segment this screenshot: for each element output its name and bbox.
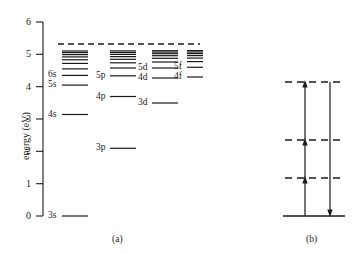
panel-a-caption: (a) <box>112 235 123 245</box>
y-tick-label-0: 0 <box>26 211 31 221</box>
level-label-6s: 6s <box>48 70 56 80</box>
absorption-arrows <box>302 80 307 216</box>
arrowhead-up-3 <box>302 80 307 87</box>
level-column-s <box>62 51 88 216</box>
panel-a <box>36 22 203 216</box>
level-label-3d: 3d <box>138 98 148 108</box>
level-group-f-unlabeled <box>187 51 203 62</box>
level-label-4d: 4d <box>138 73 148 83</box>
level-label-5p: 5p <box>96 71 106 81</box>
level-group-p-unlabeled <box>110 51 136 68</box>
y-tick-label-5: 5 <box>26 49 31 59</box>
level-column-p <box>110 51 136 148</box>
y-tick-label-6: 6 <box>26 17 31 27</box>
panel-b-caption: (b) <box>306 235 317 245</box>
level-label-5d: 5d <box>138 63 148 73</box>
level-label-5s: 5s <box>48 80 56 90</box>
y-tick-label-3: 3 <box>26 114 31 124</box>
level-label-4s: 4s <box>48 110 56 120</box>
level-group-d-unlabeled <box>152 51 178 62</box>
level-label-5f: 5f <box>174 62 182 72</box>
level-group-s-unlabeled <box>62 51 88 69</box>
level-column-f <box>187 51 203 77</box>
level-label-3s: 3s <box>48 211 56 221</box>
y-tick-label-4: 4 <box>26 82 31 92</box>
y-axis-ticks <box>36 22 43 216</box>
level-label-4f: 4f <box>174 72 182 82</box>
panel-b <box>283 80 345 217</box>
y-tick-label-2: 2 <box>26 146 31 156</box>
level-label-3p: 3p <box>96 143 106 153</box>
level-label-4p: 4p <box>96 92 106 102</box>
y-tick-label-1: 1 <box>26 179 31 189</box>
emission-arrow <box>327 82 332 217</box>
